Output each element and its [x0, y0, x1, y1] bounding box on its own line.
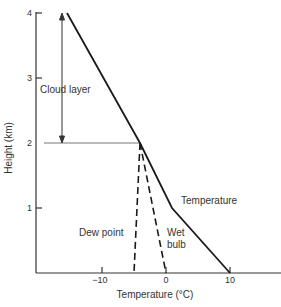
- wet-bulb-label-line1: Wet: [167, 227, 185, 238]
- arrow-down-icon: [60, 136, 65, 143]
- wet-bulb-line: [140, 143, 166, 273]
- y-tick-labels: 4 3 2 1: [27, 8, 32, 213]
- cloud-layer-label: Cloud layer: [40, 84, 91, 95]
- arrow-up-icon: [60, 13, 65, 20]
- y-tick-label: 1: [27, 203, 32, 213]
- y-axis-label: Height (km): [3, 122, 14, 174]
- y-tick-label: 2: [27, 138, 32, 148]
- dew-point-label: Dew point: [79, 227, 124, 238]
- cloud-layer-arrow: [60, 13, 65, 143]
- x-tick-label: 0: [163, 275, 168, 285]
- temperature-label: Temperature: [181, 195, 238, 206]
- y-tick-label: 3: [27, 73, 32, 83]
- x-axis-label: Temperature (°C): [117, 289, 194, 300]
- chart: 4 3 2 1 −10 0 10 Temperature (°C) Height…: [0, 0, 281, 307]
- y-tick-label: 4: [27, 8, 32, 18]
- dew-point-line: [134, 143, 140, 273]
- wet-bulb-label-line2: bulb: [167, 239, 186, 250]
- x-tick-label: −10: [92, 275, 107, 285]
- x-tick-label: 10: [225, 275, 235, 285]
- x-tick-labels: −10 0 10: [92, 275, 235, 285]
